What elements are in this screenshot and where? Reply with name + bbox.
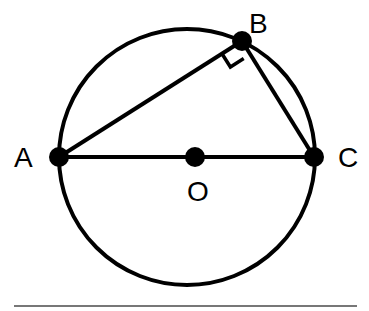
label-C: C [338,142,358,173]
right-angle-marker [222,54,244,67]
point-O [185,147,205,167]
diagram-canvas: A B C O [0,0,369,311]
segment-AB [59,41,242,157]
point-C [304,147,324,167]
label-B: B [249,8,268,39]
label-A: A [14,142,33,173]
label-O: O [187,176,209,207]
point-A [49,147,69,167]
